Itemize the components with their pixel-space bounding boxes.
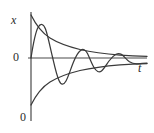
damped-oscillation-figure: x t 0 0: [0, 0, 154, 133]
curves-group: [31, 15, 147, 105]
y-axis-zero-tick-label: 0: [13, 51, 19, 63]
origin-zero-label: 0: [20, 111, 26, 123]
upper-envelope-curve: [31, 15, 147, 56]
lower-envelope-curve: [31, 64, 147, 105]
damped-oscillation-curve: [31, 24, 147, 84]
y-axis-label: x: [11, 14, 16, 26]
x-axis-label: t: [138, 62, 141, 74]
